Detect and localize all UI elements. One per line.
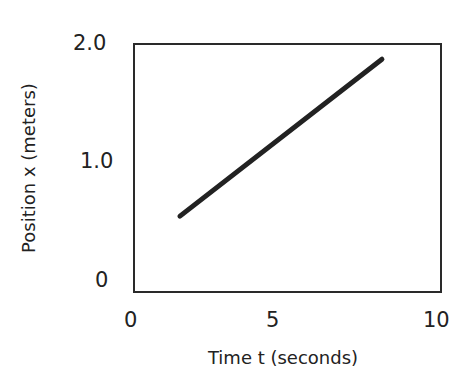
data-line	[0, 0, 474, 387]
y-axis-label: Position x (meters)	[18, 83, 39, 253]
y-tick-1: 1.0	[80, 149, 113, 173]
x-tick-5: 5	[266, 308, 279, 332]
y-tick-2: 2.0	[73, 31, 106, 55]
x-axis-label: Time t (seconds)	[208, 347, 358, 368]
x-tick-0: 0	[124, 308, 137, 332]
y-tick-0: 0	[95, 268, 108, 292]
x-tick-10: 10	[423, 308, 450, 332]
